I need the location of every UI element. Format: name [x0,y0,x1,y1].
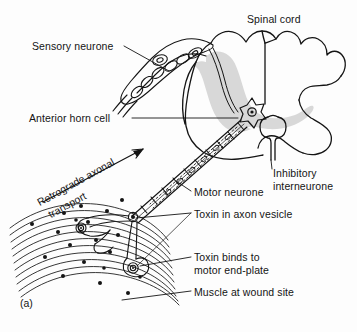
dorsal-root-ganglion [113,39,213,117]
label-sensory-neurone: Sensory neurone [32,40,113,53]
label-spinal-cord: Spinal cord [247,13,301,26]
muscle-fibres [10,204,179,305]
label-anterior-horn-cell: Anterior horn cell [29,112,110,125]
grey-matter [194,52,314,132]
label-toxin-in-axon-vesicle: Toxin in axon vesicle [194,208,292,221]
label-toxin-binds-line1: Toxin binds to [194,251,260,264]
figure-caption: (a) [20,297,33,309]
label-muscle-at-wound-site: Muscle at wound site [194,286,294,299]
figure-root: Spinal cord Sensory neurone Anterior hor… [0,0,357,332]
label-inhibitory-interneurone-line1: Inhibitory [273,167,317,180]
label-toxin-binds-line2: motor end-plate [194,264,269,277]
label-motor-neurone: Motor neurone [194,186,264,199]
label-inhibitory-interneurone-line2: interneurone [273,180,333,193]
